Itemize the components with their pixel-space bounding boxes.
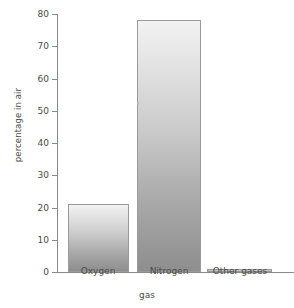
y-tick-mark [52, 272, 57, 273]
plot-area: 0 10 20 30 40 50 60 70 [57, 14, 294, 272]
x-category-label-nitrogen: Nitrogen [150, 266, 189, 276]
y-tick-mark [52, 111, 57, 112]
bar-nitrogen[interactable] [137, 20, 201, 272]
y-tick-label: 10 [38, 235, 49, 245]
y-tick-label: 40 [38, 138, 49, 148]
y-tick-label: 0 [43, 267, 49, 277]
y-tick-label: 60 [38, 74, 49, 84]
image-artifact-speck [137, 102, 139, 105]
y-tick-label: 70 [38, 41, 49, 51]
x-category-label-oxygen: Oxygen [81, 266, 116, 276]
y-tick-mark [52, 208, 57, 209]
y-tick-mark [52, 79, 57, 80]
y-tick-label: 30 [38, 170, 49, 180]
y-tick-mark [52, 240, 57, 241]
x-category-label-other-gases: Other gases [213, 266, 268, 276]
y-tick-mark [52, 175, 57, 176]
y-tick-mark [52, 14, 57, 15]
x-axis-label: gas [0, 290, 294, 300]
bar-oxygen[interactable] [68, 204, 129, 272]
y-tick-label: 50 [38, 106, 49, 116]
y-tick-label: 80 [38, 9, 49, 19]
y-tick-label: 20 [38, 203, 49, 213]
y-axis-label: percentage in air [13, 50, 23, 200]
y-tick-mark [52, 143, 57, 144]
bar-chart: percentage in air 0 10 20 30 40 50 [0, 0, 294, 308]
y-axis-line [57, 14, 58, 272]
y-tick-mark [52, 46, 57, 47]
